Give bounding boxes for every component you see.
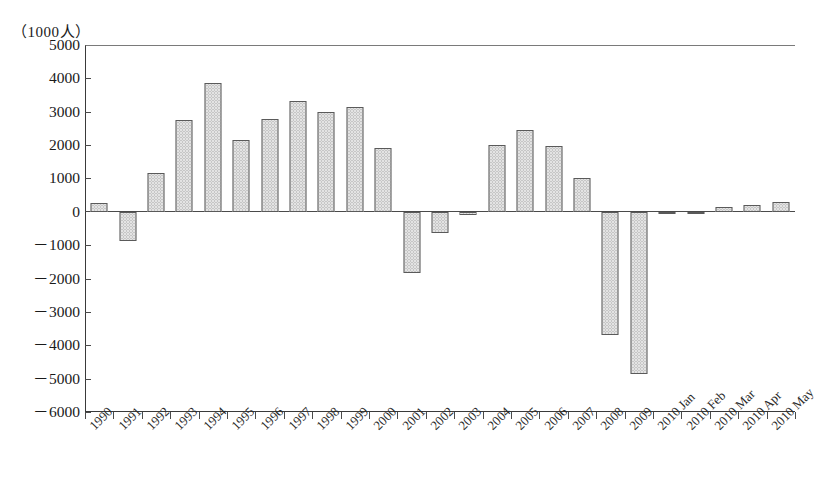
x-axis-category-label: 1999 [343, 405, 371, 433]
x-axis-category-label: 1997 [286, 405, 314, 433]
x-axis-tick-mark [113, 412, 114, 419]
x-axis-tick-mark [426, 412, 427, 419]
x-axis-category-label: 1995 [229, 405, 257, 433]
x-axis-tick-mark [568, 412, 569, 419]
x-axis-tick-mark [369, 412, 370, 419]
x-axis-tick-mark [795, 412, 796, 419]
x-axis-tick-mark [312, 412, 313, 419]
x-axis-category-label: 1990 [87, 405, 115, 433]
x-axis-category-label: 2004 [485, 405, 513, 433]
x-axis-tick-mark [199, 412, 200, 419]
x-axis-category-label: 2009 [627, 405, 655, 433]
x-axis-tick-mark [539, 412, 540, 419]
x-axis-category-label: 1998 [314, 405, 342, 433]
x-axis-tick-mark [625, 412, 626, 419]
x-axis-tick-mark [738, 412, 739, 419]
y-axis-tick-mark [85, 245, 91, 246]
y-axis-tick-mark [85, 78, 91, 79]
y-axis-tick-mark [85, 178, 91, 179]
x-axis-tick-mark [397, 412, 398, 419]
x-axis-tick-mark [710, 412, 711, 419]
x-axis-tick-mark [483, 412, 484, 419]
x-axis-category-label: 2003 [456, 405, 484, 433]
x-axis-category-label: 2007 [570, 405, 598, 433]
x-axis-tick-mark [341, 412, 342, 419]
y-axis-tick-mark [85, 312, 91, 313]
x-axis-category-label: 1993 [172, 405, 200, 433]
y-axis-tick-mark [85, 379, 91, 380]
x-axis-category-label: 2008 [598, 405, 626, 433]
x-axis-tick-mark [511, 412, 512, 419]
x-axis-tick-mark [596, 412, 597, 419]
x-axis-category-label: 1991 [116, 405, 144, 433]
x-axis-tick-mark [227, 412, 228, 419]
y-axis-tick-mark [85, 345, 91, 346]
x-axis-tick-mark [454, 412, 455, 419]
x-axis-tick-mark [85, 412, 86, 419]
x-axis-tick-mark [170, 412, 171, 419]
x-axis-tick-mark [681, 412, 682, 419]
y-axis-tick-mark [85, 112, 91, 113]
x-axis-category-label: 2002 [428, 405, 456, 433]
y-axis-tick-mark [85, 145, 91, 146]
x-axis-tick-mark [142, 412, 143, 419]
y-axis-tick-mark [85, 279, 91, 280]
x-axis-tick-mark [284, 412, 285, 419]
x-axis-category-label: 1996 [258, 405, 286, 433]
x-axis-tick-mark [767, 412, 768, 419]
x-axis-tick-mark [653, 412, 654, 419]
x-axis-category-label: 2005 [513, 405, 541, 433]
x-axis-category-label: 2006 [542, 405, 570, 433]
x-axis-category-label: 1994 [201, 405, 229, 433]
x-axis-category-label: 1992 [144, 405, 172, 433]
x-axis-category-label: 2000 [371, 405, 399, 433]
x-axis-tick-mark [255, 412, 256, 419]
x-axis-category-label: 2001 [400, 405, 428, 433]
